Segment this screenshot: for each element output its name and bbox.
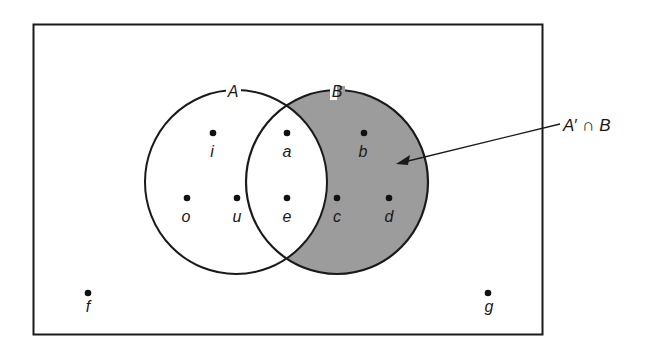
dot-u bbox=[234, 195, 241, 202]
element-label-i: i bbox=[210, 143, 214, 160]
element-label-g: g bbox=[485, 298, 494, 315]
element-label-o: o bbox=[182, 208, 191, 225]
annotation-label: A′ ∩ B bbox=[562, 116, 611, 135]
dot-o bbox=[184, 195, 191, 202]
dot-e bbox=[284, 195, 291, 202]
dot-i bbox=[210, 130, 217, 137]
set-b-label: B bbox=[332, 83, 343, 100]
venn-diagram: A B i a b o u e c d f g A′ ∩ B bbox=[0, 0, 653, 350]
element-label-e: e bbox=[283, 208, 292, 225]
dot-d bbox=[386, 195, 393, 202]
dot-g bbox=[485, 290, 492, 297]
set-a-label: A bbox=[227, 83, 239, 100]
dot-b bbox=[361, 130, 368, 137]
element-label-a: a bbox=[283, 143, 292, 160]
dot-a bbox=[284, 130, 291, 137]
dot-f bbox=[85, 290, 92, 297]
dot-c bbox=[334, 195, 341, 202]
element-label-c: c bbox=[333, 208, 341, 225]
element-label-u: u bbox=[233, 208, 242, 225]
element-label-b: b bbox=[359, 143, 368, 160]
element-label-d: d bbox=[385, 208, 395, 225]
